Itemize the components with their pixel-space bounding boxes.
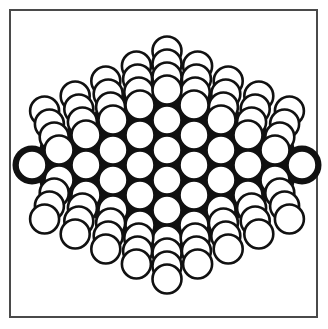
circle	[126, 151, 155, 180]
circle	[180, 121, 209, 150]
circle	[180, 91, 209, 120]
circle	[207, 106, 236, 135]
circle	[18, 151, 47, 180]
circle	[72, 151, 101, 180]
circle	[122, 250, 151, 279]
circle	[153, 136, 182, 165]
circle	[244, 220, 273, 249]
circle	[126, 91, 155, 120]
circle	[153, 166, 182, 195]
circle	[234, 121, 263, 150]
circle	[207, 136, 236, 165]
circle	[99, 166, 128, 195]
circle	[180, 151, 209, 180]
circle	[153, 106, 182, 135]
circle	[61, 220, 90, 249]
circle	[288, 151, 317, 180]
circle	[180, 181, 209, 210]
circle	[234, 151, 263, 180]
circle	[99, 106, 128, 135]
circle	[30, 205, 59, 234]
circle	[126, 121, 155, 150]
circle	[153, 76, 182, 105]
circle	[126, 181, 155, 210]
circle	[261, 136, 290, 165]
circle	[183, 250, 212, 279]
circle	[99, 136, 128, 165]
circle	[91, 235, 120, 264]
hexagonal-packing-diagram	[0, 0, 328, 329]
circle	[214, 235, 243, 264]
circle	[153, 196, 182, 225]
circle	[153, 265, 182, 294]
circle	[275, 205, 304, 234]
circle	[72, 121, 101, 150]
circle	[207, 166, 236, 195]
circle	[45, 136, 74, 165]
